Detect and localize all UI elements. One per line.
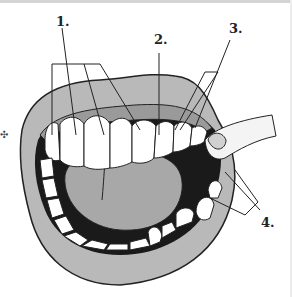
- label-4: 4.: [261, 215, 275, 230]
- label-2: 2.: [154, 32, 168, 47]
- svg-text:✣: ✣: [0, 129, 8, 140]
- label-1: 1.: [56, 14, 70, 29]
- label-3: 3.: [229, 21, 243, 36]
- mouth-diagram: ✣: [0, 0, 292, 297]
